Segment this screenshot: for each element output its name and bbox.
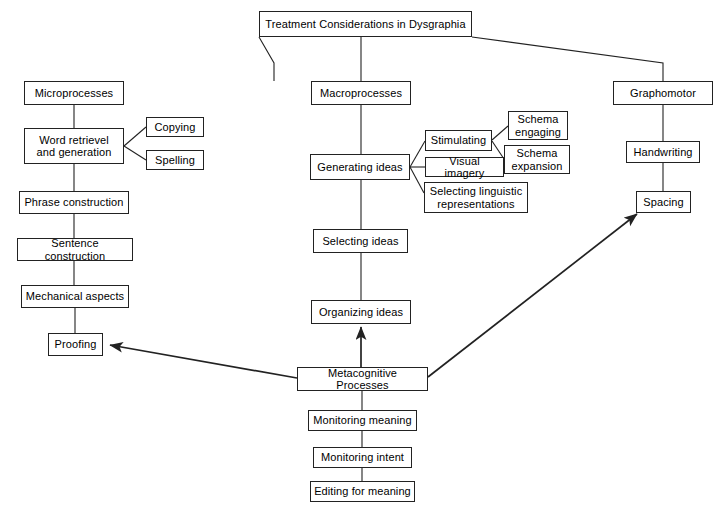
node-mon_intent[interactable]: Monitoring intent [313,447,412,468]
connector-word-to-copying [124,127,146,146]
node-label-copying: Copying [154,121,195,133]
node-title[interactable]: Treatment Considerations in Dysgraphia [259,11,472,37]
node-handwriting[interactable]: Handwriting [626,141,700,163]
connector-meta-to-spacing [428,214,637,377]
diagram-canvas: Treatment Considerations in DysgraphiaMi… [0,0,727,507]
connector-word-to-spelling [124,146,146,160]
node-proofing[interactable]: Proofing [48,333,103,356]
node-label-micro: Microprocesses [35,87,113,99]
node-generating[interactable]: Generating ideas [310,154,410,180]
node-label-generating: Generating ideas [317,161,402,173]
node-label-schema_exp: Schema expansion [511,147,562,172]
node-sentence[interactable]: Sentence construction [17,238,133,261]
node-edit_meaning[interactable]: Editing for meaning [310,481,415,502]
node-label-mon_meaning: Monitoring meaning [313,414,411,426]
node-label-organizing: Organizing ideas [319,306,403,318]
connector-gen-to-stimulating [410,141,425,167]
node-label-schema_eng: Schema engaging [515,113,561,138]
node-mon_meaning[interactable]: Monitoring meaning [308,410,417,431]
node-visual[interactable]: Visual imagery [425,157,504,177]
node-label-spacing: Spacing [643,196,683,208]
node-label-visual: Visual imagery [429,155,500,180]
node-mechanical[interactable]: Mechanical aspects [21,285,129,308]
node-label-macro: Macroprocesses [320,87,402,99]
node-stimulating[interactable]: Stimulating [425,130,492,151]
node-copying[interactable]: Copying [146,117,204,137]
node-label-phrase: Phrase construction [24,196,123,208]
node-spacing[interactable]: Spacing [636,191,691,213]
node-grapho[interactable]: Graphomotor [613,81,713,105]
node-label-mon_intent: Monitoring intent [321,451,404,463]
node-selecting_ling[interactable]: Selecting linguistic representations [424,182,528,213]
connector-stim-to-schema-eng [492,126,508,140]
node-label-handwriting: Handwriting [633,146,692,158]
connector-title-to-micro [259,37,274,81]
node-label-selecting_ling: Selecting linguistic representations [430,185,523,210]
connector-meta-to-proofing [110,345,297,378]
node-label-edit_meaning: Editing for meaning [314,485,411,497]
node-word[interactable]: Word retrievel and generation [24,128,124,164]
node-meta[interactable]: Metacognitive Processes [297,367,428,391]
node-label-selecting: Selecting ideas [322,235,398,247]
node-label-title: Treatment Considerations in Dysgraphia [265,18,465,30]
connector-gen-to-selecting-ling [410,167,424,193]
node-micro[interactable]: Microprocesses [24,81,124,105]
node-label-grapho: Graphomotor [630,87,696,99]
node-label-mechanical: Mechanical aspects [26,290,124,302]
node-label-proofing: Proofing [55,338,97,350]
node-label-meta: Metacognitive Processes [301,367,424,392]
node-label-word: Word retrievel and generation [37,134,112,159]
node-phrase[interactable]: Phrase construction [19,191,129,214]
node-organizing[interactable]: Organizing ideas [311,300,411,324]
connector-title-to-grapho [472,37,663,81]
node-spelling[interactable]: Spelling [146,150,204,170]
node-schema_exp[interactable]: Schema expansion [504,145,570,174]
node-macro[interactable]: Macroprocesses [311,81,411,105]
node-label-sentence: Sentence construction [21,237,129,262]
node-schema_eng[interactable]: Schema engaging [508,111,568,140]
node-selecting[interactable]: Selecting ideas [313,229,408,253]
node-label-spelling: Spelling [155,154,195,166]
node-label-stimulating: Stimulating [431,134,487,146]
